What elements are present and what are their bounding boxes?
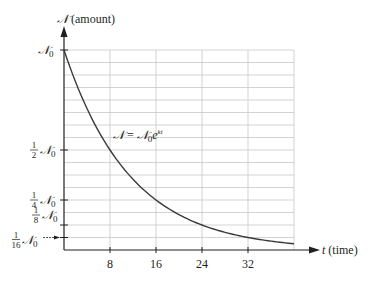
svg-text:1: 1 [34, 205, 39, 215]
pointer-arrow-icon [54, 236, 60, 240]
tick-marks [60, 50, 248, 253]
y-tick-label: 𝒩0 [38, 43, 54, 59]
x-axis-title: t (time) [322, 243, 358, 257]
x-axis-arrow-icon [309, 247, 320, 254]
decay-curve [64, 50, 294, 244]
svg-text:8: 8 [34, 215, 39, 225]
svg-text:𝒩0: 𝒩0 [40, 143, 56, 159]
y-tick-label: 116𝒩0 [12, 230, 39, 250]
grid [64, 50, 294, 250]
svg-text:𝒩0: 𝒩0 [22, 233, 38, 249]
svg-text:1: 1 [14, 230, 19, 240]
svg-text:𝒩0: 𝒩0 [38, 43, 54, 59]
svg-text:𝒩0: 𝒩0 [42, 208, 58, 224]
y-tick-label: 12𝒩0 [30, 140, 56, 160]
svg-text:2: 2 [32, 150, 37, 160]
y-tick-labels: 𝒩012𝒩014𝒩018𝒩0116𝒩0 [12, 43, 59, 250]
axes [61, 26, 321, 254]
y-axis-arrow-icon [61, 26, 68, 37]
svg-text:1: 1 [32, 190, 37, 200]
svg-text:1: 1 [32, 140, 37, 150]
decay-chart: 𝒩 (amount) t (time) 𝒩 = 𝒩0ekt 8162432 𝒩0… [0, 0, 373, 282]
x-tick-label: 8 [107, 257, 113, 271]
svg-text:16: 16 [12, 240, 22, 250]
x-tick-label: 24 [196, 257, 208, 271]
x-tick-labels: 8162432 [107, 257, 254, 271]
x-tick-label: 32 [242, 257, 254, 271]
equation-label: 𝒩 = 𝒩0ekt [113, 128, 164, 144]
x-tick-label: 16 [150, 257, 162, 271]
y-axis-title: 𝒩 (amount) [57, 12, 115, 26]
svg-text:𝒩0: 𝒩0 [40, 193, 56, 209]
